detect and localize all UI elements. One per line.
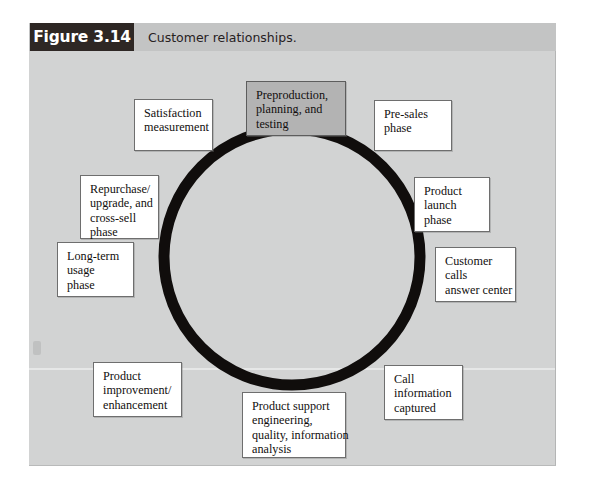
node-line: launch xyxy=(424,198,481,212)
node-line: answer center xyxy=(445,283,507,297)
node-repurchase-upgrade-cross-sell-phase[interactable]: Repurchase/ upgrade, and cross-sell phas… xyxy=(80,175,159,239)
node-line: Preproduction, xyxy=(256,88,337,102)
node-line: information xyxy=(394,386,454,400)
node-line: usage xyxy=(67,263,125,277)
node-line: phase xyxy=(384,121,443,135)
node-line: measurement xyxy=(144,120,204,134)
node-line: planning, and xyxy=(256,102,337,116)
node-line: Repurchase/ xyxy=(90,182,150,196)
node-product-support-engineering[interactable]: Product support engineering, quality, in… xyxy=(242,392,346,458)
figure-number-block: Figure 3.14 xyxy=(30,23,134,51)
node-line: upgrade, and xyxy=(90,196,150,210)
node-line: cross-sell xyxy=(90,211,150,225)
node-line: quality, information xyxy=(252,428,337,442)
node-line: phase xyxy=(67,278,125,292)
figure-number-label: Figure 3.14 xyxy=(33,28,131,46)
node-product-improvement-enhancement[interactable]: Product improvement/ enhancement xyxy=(93,362,182,417)
node-line: testing xyxy=(256,117,337,131)
figure-header: Figure 3.14 Customer relationships. xyxy=(29,23,556,51)
node-customer-calls-answer-center[interactable]: Customer calls answer center xyxy=(435,247,516,302)
node-pre-sales-phase[interactable]: Pre-sales phase xyxy=(374,100,452,151)
node-line: phase xyxy=(90,225,150,239)
node-call-information-captured[interactable]: Call information captured xyxy=(384,365,463,420)
node-line: analysis xyxy=(252,442,337,456)
figure-body-panel: Preproduction, planning, and testing Pre… xyxy=(29,51,556,466)
figure-container: Figure 3.14 Customer relationships. Prep… xyxy=(29,23,556,466)
node-line: improvement/ xyxy=(103,383,173,397)
node-line: Customer xyxy=(445,254,507,268)
node-line: calls xyxy=(445,268,507,282)
node-satisfaction-measurement[interactable]: Satisfaction measurement xyxy=(134,99,213,151)
node-line: Satisfaction xyxy=(144,106,204,120)
node-line: engineering, xyxy=(252,413,337,427)
node-line: captured xyxy=(394,401,454,415)
node-line: Product support xyxy=(252,399,337,413)
node-line: Pre-sales xyxy=(384,107,443,121)
node-line: phase xyxy=(424,213,481,227)
figure-caption-label: Customer relationships. xyxy=(148,23,297,51)
node-line: Product xyxy=(103,369,173,383)
node-preproduction[interactable]: Preproduction, planning, and testing xyxy=(246,81,346,136)
node-product-launch-phase[interactable]: Product launch phase xyxy=(414,177,490,232)
node-line: Long-term xyxy=(67,249,125,263)
node-line: enhancement xyxy=(103,398,173,412)
node-line: Product xyxy=(424,184,481,198)
node-long-term-usage-phase[interactable]: Long-term usage phase xyxy=(57,242,134,297)
node-line: Call xyxy=(394,372,454,386)
